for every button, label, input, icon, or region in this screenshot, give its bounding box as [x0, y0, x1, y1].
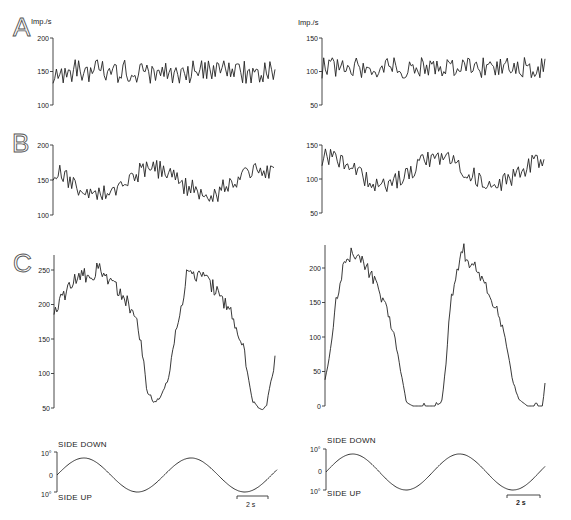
unit-label-left: Imp./s: [31, 17, 52, 26]
stim-zero-tick-right: 0: [318, 468, 322, 475]
B-right-ytick-label-150: 150: [306, 142, 318, 149]
unit-label-right: Imp./s: [298, 18, 319, 27]
panel-label-b: B: [12, 128, 29, 158]
C-right-ytick-label-0: 0: [317, 403, 321, 410]
C-left-ytick-label-250: 250: [38, 267, 50, 274]
B-right-trace: [322, 149, 544, 192]
stimulus-right-trace: [326, 454, 545, 490]
figure: A B C Imp./s Imp./s 10015020050100150100…: [0, 0, 571, 520]
C-right-ytick-label-200: 200: [309, 265, 321, 272]
C-right-ytick-label-50: 50: [313, 368, 321, 375]
C-left-ytick-label-100: 100: [38, 370, 50, 377]
stimulus-left-scale-bar: [237, 496, 268, 499]
B-left-trace: [53, 160, 274, 201]
A-right-ytick-label-150: 150: [306, 35, 318, 42]
panel-label-c: C: [13, 248, 32, 278]
B-left-ytick-label-150: 150: [37, 177, 49, 184]
C-left-ytick-label-50: 50: [42, 405, 50, 412]
C-left-ytick-label-150: 150: [38, 336, 50, 343]
A-left-ytick-label-150: 150: [37, 68, 49, 75]
stim-zero-tick-left: 0: [49, 472, 53, 479]
side-down-label-left: SIDE DOWN: [58, 440, 107, 449]
C-left-trace: [54, 263, 275, 410]
stim-top-tick-left: 10°: [41, 450, 52, 457]
B-right-ytick-label-100: 100: [306, 176, 318, 183]
B-left-ytick-label-200: 200: [37, 142, 49, 149]
C-right-trace: [325, 244, 545, 406]
C-right-ytick-label-100: 100: [309, 334, 321, 341]
stimulus-left-trace: [57, 458, 277, 492]
side-down-label-right: SIDE DOWN: [327, 436, 376, 445]
stim-bottom-tick-right: 10°: [310, 488, 321, 495]
scale-bar-label-right: 2 s: [516, 499, 526, 506]
B-left-ytick-label-100: 100: [37, 212, 49, 219]
side-up-label-right: SIDE UP: [327, 489, 361, 498]
side-up-label-left: SIDE UP: [58, 493, 92, 502]
scale-bar-label-left: 2 s: [246, 501, 256, 508]
A-right-trace: [322, 58, 545, 79]
A-left-trace: [53, 60, 275, 84]
A-left-ytick-label-100: 100: [37, 102, 49, 109]
A-right-ytick-label-100: 100: [306, 68, 318, 75]
panel-label-a: A: [13, 12, 31, 42]
A-left-ytick-label-200: 200: [37, 35, 49, 42]
C-right-ytick-label-150: 150: [309, 299, 321, 306]
B-right-ytick-label-50: 50: [310, 210, 318, 217]
stim-top-tick-right: 10°: [310, 446, 321, 453]
C-left-ytick-label-200: 200: [38, 301, 50, 308]
stimulus-right-scale-bar: [507, 495, 540, 498]
A-right-ytick-label-50: 50: [310, 102, 318, 109]
stim-bottom-tick-left: 10°: [41, 491, 52, 498]
